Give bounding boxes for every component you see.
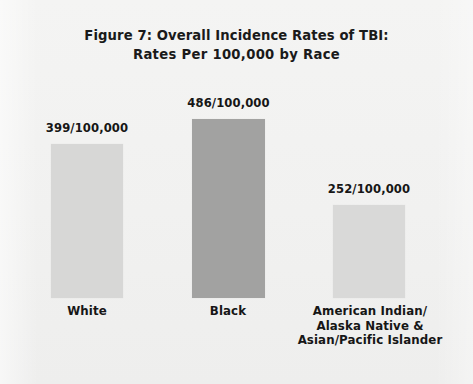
bar-rect-american-indian-alaska-native-asian-pacific-islander	[333, 205, 405, 298]
bar-label-black-line-1: Black	[210, 304, 246, 319]
bar-american-indian-alaska-native-asian-pacific-islander: 252/100,000	[333, 205, 405, 298]
bar-black: 486/100,000	[192, 119, 265, 298]
bar-label-black: Black	[210, 304, 246, 319]
bar-value-black: 486/100,000	[187, 96, 269, 110]
bar-label-aian-api-line-3: Asian/Pacific Islander	[298, 333, 443, 348]
bar-label-aian-api-line-1: American Indian/	[298, 304, 443, 319]
figure-container: Figure 7: Overall Incidence Rates of TBI…	[0, 0, 473, 384]
bar-rect-black	[192, 119, 265, 298]
bar-white: 399/100,000	[51, 144, 123, 298]
bar-label-white: White	[67, 304, 107, 319]
bar-chart-plot-area: 399/100,000 White 486/100,000 Black 252/…	[0, 0, 473, 384]
bar-label-american-indian-alaska-native-asian-pacific-islander: American Indian/ Alaska Native & Asian/P…	[298, 304, 443, 348]
bar-label-white-line-1: White	[67, 304, 107, 319]
bar-label-aian-api-line-2: Alaska Native &	[298, 319, 443, 334]
bar-rect-white	[51, 144, 123, 298]
bar-value-american-indian-alaska-native-asian-pacific-islander: 252/100,000	[328, 182, 410, 196]
bar-value-white: 399/100,000	[46, 121, 128, 135]
